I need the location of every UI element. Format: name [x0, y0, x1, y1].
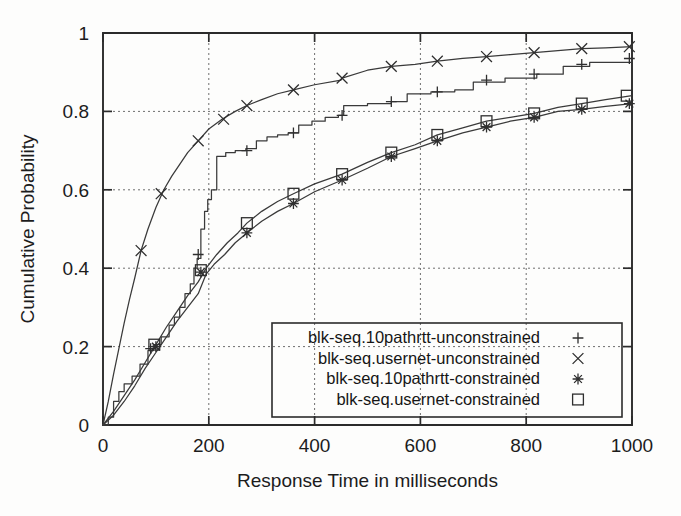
y-tick-label: 0 [78, 415, 89, 436]
data-point-marker-square [573, 394, 584, 405]
data-point-marker-star [386, 151, 397, 162]
data-point-marker-cross [573, 353, 584, 364]
y-tick-label: 0.2 [63, 337, 89, 358]
data-point-marker-plus [576, 59, 587, 70]
data-point-marker-star [529, 112, 540, 123]
data-point-marker-plus [432, 86, 443, 97]
x-axis-title: Response Time in milliseconds [237, 470, 498, 491]
x-tick-label: 0 [98, 435, 109, 456]
data-point-marker-cross [136, 245, 147, 256]
data-point-marker-plus [573, 333, 584, 344]
data-point-marker-cross [337, 73, 348, 84]
data-markers-layer [136, 41, 635, 354]
y-tick-label: 0.4 [63, 258, 90, 279]
data-point-marker-cross [156, 188, 167, 199]
x-tick-label: 800 [510, 435, 542, 456]
legend-label-2: blk-seq.10pathrtt-constrained [326, 369, 540, 387]
y-axis-title: Cumulative Probability [17, 134, 38, 324]
legend-label-3: blk-seq.usernet-constrained [336, 390, 540, 408]
data-point-marker-cross [193, 135, 204, 146]
data-point-marker-star [624, 98, 635, 109]
y-tick-label: 1 [78, 23, 89, 44]
legend: blk-seq.10pathrtt-unconstrainedblk-seq.u… [272, 323, 622, 417]
x-tick-label: 400 [299, 435, 331, 456]
data-point-marker-plus [193, 249, 204, 260]
data-point-marker-cross [218, 114, 229, 125]
y-tick-label: 0.8 [63, 101, 89, 122]
data-point-marker-cross [241, 100, 252, 111]
legend-label-1: blk-seq.usernet-unconstrained [318, 349, 540, 367]
data-point-marker-plus [481, 75, 492, 86]
data-point-marker-star [573, 374, 584, 385]
data-point-marker-plus [288, 128, 299, 139]
data-point-marker-plus [386, 96, 397, 107]
data-point-marker-plus [241, 145, 252, 156]
x-tick-label: 600 [405, 435, 437, 456]
chart-page: 00.20.40.60.8102004006008001000 Response… [0, 0, 681, 516]
legend-label-0: blk-seq.10pathrtt-unconstrained [308, 328, 540, 346]
cdf-plot: 00.20.40.60.8102004006008001000 Response… [0, 0, 681, 516]
x-tick-label: 1000 [611, 435, 653, 456]
x-tick-label: 200 [193, 435, 225, 456]
data-point-marker-cross [288, 84, 299, 95]
y-tick-label: 0.6 [63, 180, 89, 201]
